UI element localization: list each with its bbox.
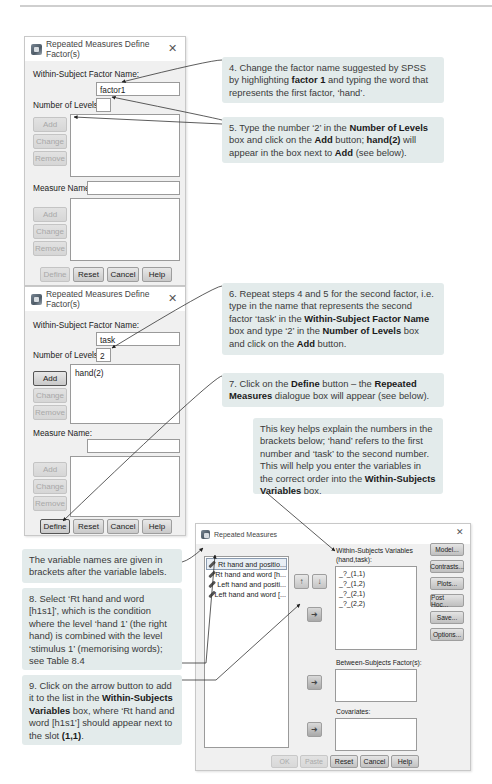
within-subjects-list[interactable]: _?_(1,1) _?_(1,2) _?_(2,1) _?_(2,2) [335,566,417,650]
arrow-right-icon: ➜ [311,725,318,734]
factor-name-input[interactable]: task [96,332,180,346]
move-to-between-button[interactable]: ➜ [307,675,322,690]
contrasts-button[interactable]: Contrasts... [430,560,464,573]
within-slot[interactable]: _?_(2,2) [339,599,413,609]
callout-step-9: 9. Click on the arrow button to add it t… [22,675,182,745]
plots-button[interactable]: Plots... [430,577,464,590]
help-button[interactable]: Help [391,755,419,768]
change-measure-button[interactable]: Change [33,479,67,494]
help-button[interactable]: Help [142,519,172,534]
remove-measure-button[interactable]: Remove [33,496,67,511]
define-factors-dialog-2: Repeated Measures Define Factor(s) ✕ Wit… [24,286,186,536]
callout-key: This key helps explain the numbers in th… [253,418,443,494]
callout-step-8: 8. Select ‘Rt hand and word [h1s1]’, whi… [22,588,182,670]
spss-app-icon [31,294,42,305]
move-to-within-button[interactable]: ➜ [307,607,322,622]
factor-list-item[interactable]: hand(2) [75,368,175,378]
change-factor-button[interactable]: Change [33,388,67,403]
variable-item[interactable]: Rt hand and word [h... [207,569,286,579]
move-to-covariates-button[interactable]: ➜ [307,722,322,737]
levels-label: Number of Levels: [33,100,100,110]
close-icon[interactable]: ✕ [168,42,177,55]
source-variable-list[interactable]: Rt hand and positio... Rt hand and word … [204,556,289,748]
move-down-button[interactable]: ↓ [312,574,327,589]
arrow-right-icon: ➜ [311,610,318,619]
within-subjects-label: Within-Subjects Variables [336,547,413,554]
cancel-button[interactable]: Cancel [360,755,389,768]
covariates-list[interactable] [335,718,417,751]
covariates-label: Covariates: [336,708,370,715]
scale-variable-icon [207,590,212,598]
add-measure-button[interactable]: Add [33,207,67,222]
within-slot[interactable]: _?_(1,2) [339,579,413,589]
remove-factor-button[interactable]: Remove [33,405,67,420]
change-measure-button[interactable]: Change [33,224,67,239]
cancel-button[interactable]: Cancel [107,267,139,282]
levels-input[interactable]: 2 [96,348,111,362]
factor-name-label: Within-Subject Factor Name: [33,320,139,330]
move-up-button[interactable]: ↑ [294,574,309,589]
measure-list[interactable] [70,198,180,261]
dialog-title-bar: Repeated Measures Define Factor(s) ✕ [25,37,185,61]
arrow-up-icon: ↑ [300,577,304,586]
between-subjects-list[interactable] [335,669,417,702]
options-button[interactable]: Options... [430,628,464,641]
variable-item[interactable]: Left hand and positi... [207,579,286,589]
add-factor-button[interactable]: Add [33,117,67,132]
variable-item[interactable]: Left hand and word [... [207,589,286,599]
define-button[interactable]: Define [40,267,70,282]
close-icon[interactable]: ✕ [168,292,177,305]
reset-button[interactable]: Reset [73,267,104,282]
spss-app-icon [201,530,210,539]
within-slot[interactable]: _?_(2,1) [339,589,413,599]
measure-name-label: Measure Name: [33,183,92,193]
reset-button[interactable]: Reset [73,519,104,534]
help-button[interactable]: Help [142,267,172,282]
callout-step-4: 4. Change the factor name suggested by S… [222,57,444,103]
within-subjects-sublabel: (hand,task): [336,556,372,563]
between-subjects-label: Between-Subjects Factor(s): [336,659,422,666]
factor-name-label: Within-Subject Factor Name: [33,69,139,79]
factor-name-input[interactable]: factor1 [96,82,180,96]
measure-name-input[interactable] [87,181,180,195]
dialog-title: Repeated Measures Define Factor(s) [46,39,185,59]
dialog-title-bar: Repeated Measures Define Factor(s) ✕ [25,287,185,311]
spss-app-icon [31,44,42,55]
callout-variable-names: The variable names are given in brackets… [22,549,182,583]
measure-name-input[interactable] [87,439,180,453]
add-measure-button[interactable]: Add [33,462,67,477]
close-icon[interactable]: ✕ [456,527,464,537]
model-button[interactable]: Model... [430,543,464,556]
change-factor-button[interactable]: Change [33,134,67,149]
define-factors-dialog-1: Repeated Measures Define Factor(s) ✕ Wit… [24,36,186,286]
factor-list[interactable]: hand(2) [70,364,180,424]
measure-name-label: Measure Name: [33,428,92,438]
levels-input[interactable] [96,98,111,112]
remove-measure-button[interactable]: Remove [33,241,67,256]
page-top-rule [20,5,492,7]
measure-list[interactable] [70,456,180,517]
callout-step-7: 7. Click on the Define button – the Repe… [222,373,444,407]
repeated-measures-dialog: Repeated Measures ✕ Rt hand and positio.… [195,523,471,771]
callout-step-5: 5. Type the number ‘2’ in the Number of … [222,117,444,163]
post-hoc-button[interactable]: Post Hoc... [430,594,464,607]
save-button[interactable]: Save... [430,611,464,624]
define-button[interactable]: Define [40,519,70,534]
remove-factor-button[interactable]: Remove [33,151,67,166]
cancel-button[interactable]: Cancel [107,519,139,534]
ok-button[interactable]: OK [271,755,298,768]
scale-variable-icon [207,570,213,578]
scale-variable-icon [207,560,216,568]
factor-list[interactable] [70,114,180,177]
variable-item[interactable]: Rt hand and positio... [207,559,286,569]
dialog-title: Repeated Measures Define Factor(s) [46,289,185,309]
arrow-down-icon: ↓ [318,577,322,586]
paste-button[interactable]: Paste [300,755,328,768]
within-slot[interactable]: _?_(1,1) [339,569,413,579]
callout-step-6: 6. Repeat steps 4 and 5 for the second f… [222,283,444,355]
arrow-right-icon: ➜ [311,678,318,687]
dialog-title-bar: Repeated Measures ✕ [196,524,470,544]
levels-label: Number of Levels: [33,350,100,360]
reset-button[interactable]: Reset [330,755,358,768]
add-factor-button[interactable]: Add [33,371,67,386]
